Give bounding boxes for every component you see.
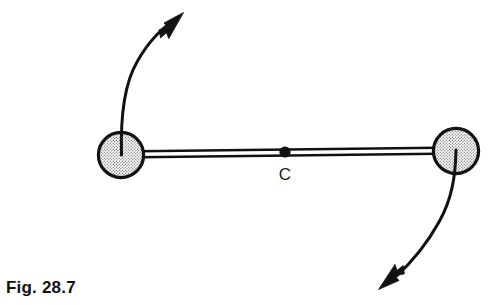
center-of-mass: C [279,146,291,184]
figure-container: C Fig. 28.7 [0,0,500,305]
center-of-mass-label: C [279,165,291,184]
center-of-mass-dot [279,146,290,157]
figure-caption: Fig. 28.7 [6,279,76,296]
dumbbell-rotation-diagram: C [0,0,500,305]
